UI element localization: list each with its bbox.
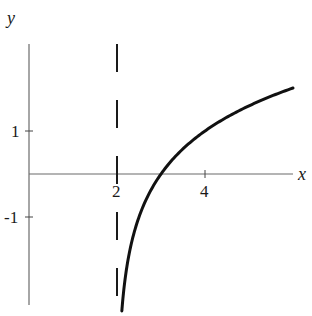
- y-tick-label-neg1: -1: [4, 208, 18, 227]
- function-graph: y x 2 4 1 -1: [0, 0, 312, 316]
- y-axis-label: y: [5, 8, 15, 28]
- y-tick-label-1: 1: [11, 122, 20, 141]
- x-tick-label-2: 2: [112, 182, 121, 201]
- x-axis-label: x: [297, 164, 306, 184]
- x-tick-label-4: 4: [200, 182, 209, 201]
